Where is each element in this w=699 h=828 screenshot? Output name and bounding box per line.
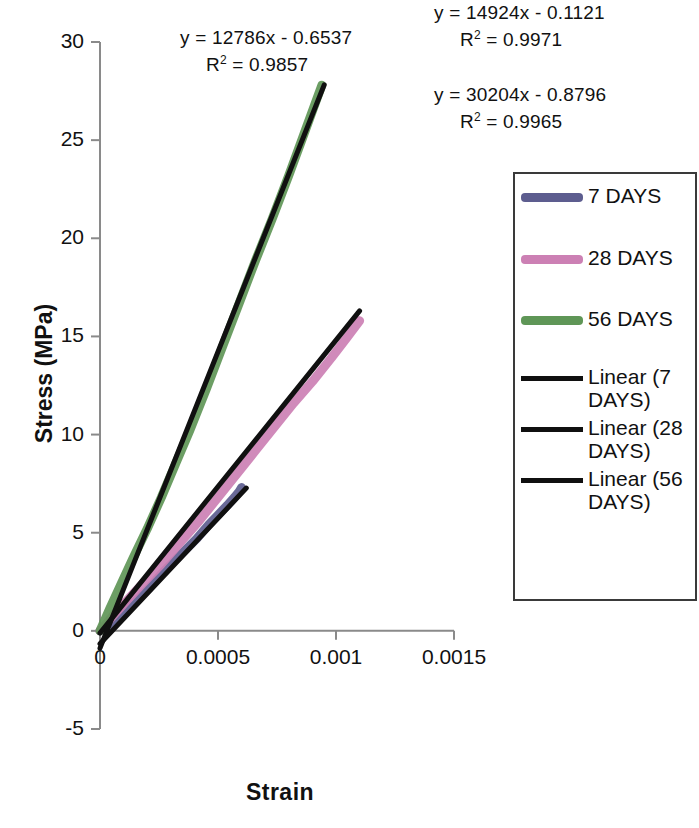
legend-item-label: 7 DAYS: [588, 184, 661, 208]
legend-spacer: [515, 273, 695, 307]
y-axis-tick-label: 20: [38, 225, 84, 249]
legend-swatch-icon: [521, 255, 583, 264]
y-axis-tick-label: -5: [38, 716, 84, 740]
x-axis-tick-label: 0.0015: [399, 645, 509, 669]
legend-box: 7 DAYS28 DAYS56 DAYSLinear (7 DAYS)Linea…: [513, 172, 697, 601]
trendline-linear-28-days-: [100, 311, 360, 633]
legend-item[interactable]: 7 DAYS: [515, 184, 695, 208]
x-axis-tick-label: 0: [45, 645, 155, 669]
legend-item-label: 28 DAYS: [588, 246, 673, 270]
legend-swatch-icon: [521, 427, 583, 432]
legend-item[interactable]: Linear (28 DAYS): [515, 416, 695, 463]
legend-item-label: Linear (56 DAYS): [588, 467, 683, 514]
legend-item-label: Linear (7 DAYS): [588, 365, 671, 412]
legend-swatch-icon: [521, 193, 583, 202]
series-lines: [100, 85, 360, 648]
legend-item[interactable]: 56 DAYS: [515, 307, 695, 331]
legend-spacer: [515, 335, 695, 365]
legend-item[interactable]: 28 DAYS: [515, 246, 695, 270]
y-axis-title: Stress (MPa): [31, 279, 58, 469]
trendline-linear-56-days-: [100, 85, 324, 648]
x-axis-tick-label: 0.001: [281, 645, 391, 669]
legend-swatch-icon: [521, 316, 583, 325]
legend-item-label: Linear (28 DAYS): [588, 416, 683, 463]
axis-lines: [91, 42, 454, 729]
y-axis-tick-label: 5: [38, 520, 84, 544]
series-line-56-days: [100, 85, 322, 631]
legend-spacer: [515, 212, 695, 246]
y-axis-tick-label: 30: [38, 29, 84, 53]
x-axis-title: Strain: [100, 779, 460, 806]
legend-swatch-icon: [521, 376, 583, 381]
y-axis-tick-label: 0: [38, 618, 84, 642]
stress-strain-chart: y = 12786x - 0.6537 R2 = 0.9857 y = 1492…: [0, 0, 699, 828]
legend-swatch-icon: [521, 478, 583, 483]
y-axis-tick-label: 25: [38, 127, 84, 151]
x-axis-tick-label: 0.0005: [163, 645, 273, 669]
trendline-linear-7-days-: [100, 488, 246, 644]
legend-item[interactable]: Linear (56 DAYS): [515, 467, 695, 514]
legend-item[interactable]: Linear (7 DAYS): [515, 365, 695, 412]
legend-item-label: 56 DAYS: [588, 307, 673, 331]
